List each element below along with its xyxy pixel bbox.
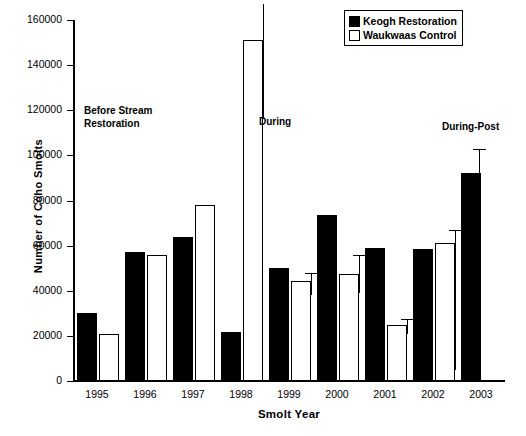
- y-axis-tick-label: 120000: [27, 103, 62, 115]
- error-bar-cap-upper-2002: [449, 230, 462, 231]
- error-bar-cap-upper-2003: [473, 149, 486, 150]
- bar-waukwaas-1998: [243, 40, 263, 381]
- bar-keogh-1996: [125, 252, 145, 381]
- error-bar-line-2002: [455, 230, 456, 370]
- error-bar-line-2003: [479, 149, 480, 201]
- bar-keogh-1998: [221, 332, 241, 381]
- bar-waukwaas-2000: [339, 274, 359, 381]
- x-axis-tick-label: 2003: [451, 388, 511, 400]
- legend-swatch-waukwaas-icon: [349, 30, 360, 41]
- error-bar-line-2001: [407, 319, 408, 334]
- bar-keogh-1997: [173, 237, 193, 381]
- chart-annotation-1: During: [259, 115, 291, 128]
- error-bar-line-2000: [359, 255, 360, 293]
- y-axis-tick-label: 100000: [27, 148, 62, 160]
- y-axis-tick-label: 160000: [27, 13, 62, 25]
- chart-legend: Keogh Restoration Waukwaas Control: [344, 10, 463, 46]
- y-axis-tick-label: 140000: [27, 58, 62, 70]
- error-bar-line-1999: [311, 273, 312, 296]
- y-axis-tick-label: 20000: [33, 329, 62, 341]
- y-axis-tick-label: 40000: [33, 284, 62, 296]
- y-axis-tick-label: 0: [56, 374, 62, 386]
- error-bar-cap-upper-1999: [305, 273, 318, 274]
- chart-annotation-2: During-Post: [442, 120, 499, 133]
- bar-keogh-2003: [461, 173, 481, 381]
- y-axis-tick: 80000: [67, 201, 73, 202]
- y-axis-tick: 20000: [67, 336, 73, 337]
- bar-keogh-2002: [413, 249, 433, 381]
- coho-smolts-bar-chart: Number of Coho Smolts 020000400006000080…: [0, 0, 526, 436]
- legend-item-keogh: Keogh Restoration: [349, 14, 457, 28]
- y-axis-tick: 120000: [67, 110, 73, 111]
- y-axis-tick: 140000: [67, 65, 73, 66]
- bar-waukwaas-1999: [291, 281, 311, 381]
- y-axis-tick: 60000: [67, 246, 73, 247]
- legend-swatch-keogh-icon: [349, 16, 360, 27]
- bar-waukwaas-1997: [195, 205, 215, 381]
- bar-waukwaas-2001: [387, 325, 407, 381]
- bar-waukwaas-1996: [147, 255, 167, 381]
- bar-keogh-2000: [317, 215, 337, 381]
- bar-waukwaas-1995: [99, 334, 119, 381]
- error-bar-cap-upper-2000: [353, 255, 366, 256]
- bar-waukwaas-2002: [435, 243, 455, 381]
- y-axis-tick: 40000: [67, 291, 73, 292]
- bar-keogh-1995: [77, 313, 97, 381]
- y-axis-tick: 0: [67, 381, 73, 382]
- bar-keogh-1999: [269, 268, 289, 381]
- error-bar-line-1998: [263, 4, 264, 119]
- error-bar-cap-upper-2001: [401, 319, 414, 320]
- y-axis-tick-label: 60000: [33, 239, 62, 251]
- legend-label-waukwaas: Waukwaas Control: [363, 29, 457, 41]
- y-axis-tick: 160000: [67, 20, 73, 21]
- legend-item-waukwaas: Waukwaas Control: [349, 28, 457, 42]
- y-axis-tick: 100000: [67, 155, 73, 156]
- y-axis-tick-label: 80000: [33, 194, 62, 206]
- y-axis-line: [73, 20, 75, 382]
- legend-label-keogh: Keogh Restoration: [363, 15, 457, 27]
- bar-keogh-2001: [365, 248, 385, 381]
- x-axis-title: Smolt Year: [73, 408, 505, 420]
- chart-annotation-0: Before Stream Restoration: [84, 104, 152, 130]
